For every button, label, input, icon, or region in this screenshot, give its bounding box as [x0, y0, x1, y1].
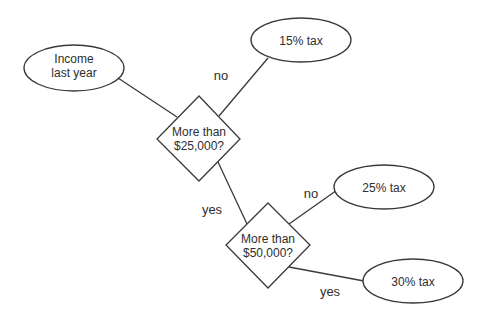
node-30-percent-tax: 30% tax: [363, 259, 463, 303]
svg-text:More than: More than: [241, 232, 295, 246]
edge-decision1-no: [219, 58, 268, 116]
node-income-last-year: Income last year: [24, 45, 124, 91]
svg-text:15% tax: 15% tax: [279, 34, 322, 48]
edge-decision2-yes: [289, 267, 364, 281]
edge-decision1-yes: [218, 162, 247, 224]
node-25-percent-tax: 25% tax: [334, 165, 434, 209]
flowchart-canvas: no yes no yes Income last year 15% tax M…: [0, 0, 489, 320]
svg-text:last year: last year: [51, 66, 96, 80]
edge-income-to-decision1: [118, 78, 177, 117]
svg-text:More than: More than: [172, 125, 226, 139]
edge-label-yes-2: yes: [320, 284, 341, 299]
node-decision-50000: More than $50,000?: [226, 203, 310, 288]
node-decision-25000: More than $25,000?: [157, 96, 240, 181]
svg-text:$25,000?: $25,000?: [174, 139, 224, 153]
svg-text:30% tax: 30% tax: [391, 275, 434, 289]
edge-label-no-2: no: [304, 186, 318, 201]
edge-label-no-1: no: [214, 68, 228, 83]
svg-text:$50,000?: $50,000?: [243, 246, 293, 260]
edge-label-yes-1: yes: [202, 202, 223, 217]
svg-text:Income: Income: [54, 52, 94, 66]
node-15-percent-tax: 15% tax: [251, 18, 351, 62]
svg-text:25% tax: 25% tax: [362, 181, 405, 195]
